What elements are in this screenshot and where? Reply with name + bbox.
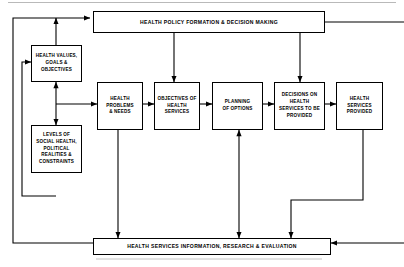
node-decisions-on-health-services[interactable]: DECISIONS ON HEALTH SERVICES TO BE PROVI… [274, 82, 325, 130]
node-health-services-information-label: HEALTH SERVICES INFORMATION, RESEARCH & … [127, 243, 297, 249]
node-health-policy-formation-label: HEALTH POLICY FORMATION & DECISION MAKIN… [140, 19, 278, 25]
node-health-services-provided-label: HEALTH SERVICES PROVIDED [337, 96, 382, 116]
node-levels-of-social-health-label: LEVELS OF SOCIAL HEALTH, POLITICAL REALI… [32, 132, 81, 166]
node-objectives-of-health-services[interactable]: OBJECTIVES OF HEALTH SERVICES [154, 82, 200, 130]
node-health-services-information[interactable]: HEALTH SERVICES INFORMATION, RESEARCH & … [93, 238, 331, 255]
flow-diagram: HEALTH POLICY FORMATION & DECISION MAKIN… [0, 0, 404, 267]
node-levels-of-social-health[interactable]: LEVELS OF SOCIAL HEALTH, POLITICAL REALI… [31, 125, 82, 173]
node-health-values-goals-objectives[interactable]: HEALTH VALUES, GOALS & OBJECTIVES [31, 45, 82, 82]
node-planning-of-options[interactable]: PLANNING OF OPTIONS [212, 82, 263, 130]
node-planning-of-options-label: PLANNING OF OPTIONS [213, 99, 262, 113]
node-health-services-provided[interactable]: HEALTH SERVICES PROVIDED [336, 82, 383, 130]
top-page-rule [8, 2, 396, 3]
bottom-page-shadow [96, 258, 322, 260]
edge-provided-to-information [291, 130, 363, 238]
node-health-values-goals-objectives-label: HEALTH VALUES, GOALS & OBJECTIVES [32, 53, 81, 73]
node-health-problems-needs-label: HEALTH PROBLEMS & NEEDS [98, 96, 142, 116]
node-decisions-on-health-services-label: DECISIONS ON HEALTH SERVICES TO BE PROVI… [275, 92, 324, 119]
node-health-problems-needs[interactable]: HEALTH PROBLEMS & NEEDS [97, 82, 143, 130]
node-health-policy-formation[interactable]: HEALTH POLICY FORMATION & DECISION MAKIN… [93, 11, 325, 33]
node-objectives-of-health-services-label: OBJECTIVES OF HEALTH SERVICES [155, 96, 199, 116]
